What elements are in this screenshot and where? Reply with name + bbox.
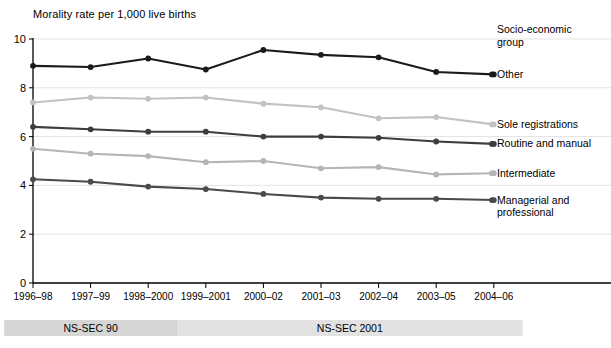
series-data-point [261,191,267,197]
series-line [33,50,494,74]
series-data-point [30,146,36,152]
chart-container: Morality rate per 1,000 live births 0246… [0,0,611,348]
series-data-point [30,124,36,130]
x-axis-tick-label: 2003–05 [417,291,456,302]
series-data-point [88,64,94,70]
series-data-point [433,69,439,75]
series-data-point [376,135,382,141]
series-data-point [261,158,267,164]
series-label: Other [497,68,524,80]
series-data-point [145,153,151,159]
x-axis-tick-label: 2004–06 [474,291,513,302]
series-data-point [318,195,324,201]
x-axis-tick-label: 1998–2000 [123,291,173,302]
series-label-line2: professional [497,206,554,218]
series-data-point [88,179,94,185]
x-axis-group: 1996–981997–991998–20001999–20012000–022… [14,283,611,302]
legend-title-line2: group [497,36,524,48]
series-data-point [203,186,209,192]
series-group [30,47,497,203]
series-data-point [145,184,151,190]
series-data-point [88,126,94,132]
series-data-point [30,176,36,182]
period-band-label: NS-SEC 90 [63,322,117,334]
y-axis-tick-label: 4 [20,179,26,191]
series-data-point [203,159,209,165]
series-data-point [30,63,36,69]
y-axis-tick-label: 0 [20,277,26,289]
series-data-point [261,134,267,140]
series-label-group: OtherSole registrationsRoutine and manua… [497,68,591,218]
series-data-point [261,47,267,53]
y-axis-tick-label: 2 [20,228,26,240]
x-axis-tick-label: 2001–03 [302,291,341,302]
series-data-point [145,56,151,62]
series-data-point [376,196,382,202]
y-axis-tick-label: 6 [20,131,26,143]
series-data-point [88,95,94,101]
series-data-point [88,151,94,157]
series-end-marker [489,197,495,203]
series-end-marker [489,71,495,77]
x-axis-tick-label: 1997–99 [71,291,110,302]
series-data-point [203,95,209,101]
series-data-point [318,52,324,58]
series-data-point [433,114,439,120]
x-axis-tick-label: 1996–98 [14,291,53,302]
x-axis-tick-label: 2002–04 [359,291,398,302]
series-data-point [203,67,209,73]
series-data-point [261,101,267,107]
series-label: Routine and manual [497,137,591,149]
x-axis-tick-label: 2000–02 [244,291,283,302]
y-axis-tick-label: 10 [14,33,26,45]
series-data-point [376,115,382,121]
series-label: Intermediate [497,167,556,179]
series-data-point [433,172,439,178]
series-end-marker [489,122,495,128]
legend-title-line1: Socio-economic [497,23,572,35]
series-data-point [203,129,209,135]
chart-plot-area: 0246810 1996–981997–991998–20001999–2001… [0,0,611,348]
series-end-marker [489,170,495,176]
series-data-point [318,104,324,110]
period-band-group: NS-SEC 90NS-SEC 2001 [4,320,522,336]
period-band-label: NS-SEC 2001 [317,322,383,334]
series-label: Managerial and [497,194,570,206]
series-data-point [376,54,382,60]
y-axis-group: 0246810 [14,33,33,289]
legend-title-group: Socio-economicgroup [497,23,572,48]
x-axis-tick-label: 1999–2001 [181,291,231,302]
series-data-point [433,196,439,202]
series-end-marker [489,141,495,147]
series-data-point [318,134,324,140]
series-data-point [30,100,36,106]
series-data-point [145,129,151,135]
series-data-point [145,96,151,102]
series-data-point [376,164,382,170]
series-data-point [433,139,439,145]
series-label: Sole registrations [497,118,578,130]
series-line [33,179,494,200]
y-axis-tick-label: 8 [20,82,26,94]
series-data-point [318,165,324,171]
